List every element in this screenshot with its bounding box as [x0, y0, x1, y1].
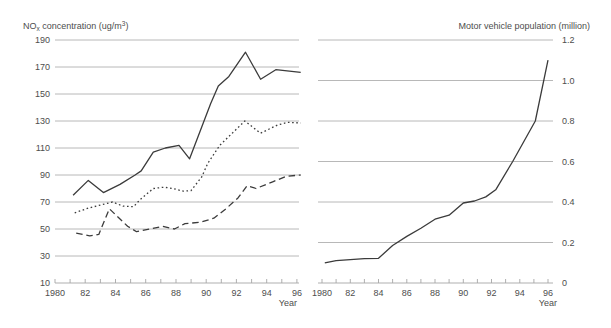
y-tick-label: 130 [35, 116, 50, 126]
y-tick-label: 0.4 [562, 197, 575, 207]
y-tick-label: 50 [40, 224, 50, 234]
x-axis-title: Year [279, 298, 297, 308]
x-tick-label: 86 [141, 288, 151, 298]
y-tick-label: 70 [40, 197, 50, 207]
y-tick-label: 0.2 [562, 238, 575, 248]
y-tick-label: 30 [40, 251, 50, 261]
y-tick-label: 150 [35, 89, 50, 99]
x-tick-label: 1980 [45, 288, 65, 298]
y-tick-label: 1.2 [562, 35, 575, 45]
y-tick-label: 10 [40, 278, 50, 288]
x-tick-label: 86 [402, 288, 412, 298]
x-tick-label: 92 [231, 288, 241, 298]
x-tick-label: 88 [430, 288, 440, 298]
y-tick-label: 170 [35, 62, 50, 72]
x-tick-label: 82 [80, 288, 90, 298]
x-tick-label: 90 [458, 288, 468, 298]
x-axis-title: Year [539, 298, 557, 308]
x-tick-label: 92 [486, 288, 496, 298]
y-tick-label: 0.6 [562, 157, 575, 167]
y-tick-label: 0 [562, 278, 567, 288]
dual-line-chart-figure: 1030507090110130150170190198082848688909… [0, 0, 611, 328]
x-tick-label: 94 [262, 288, 272, 298]
y-tick-label: 110 [36, 143, 50, 153]
y-tick-label: 190 [35, 35, 50, 45]
x-tick-label: 94 [515, 288, 525, 298]
x-tick-label: 96 [543, 288, 553, 298]
x-tick-label: 1980 [312, 288, 332, 298]
chart-title: Motor vehicle population (million) [458, 21, 590, 31]
x-tick-label: 84 [110, 288, 120, 298]
y-tick-label: 90 [40, 170, 50, 180]
x-tick-label: 82 [345, 288, 355, 298]
series-summer-fall [76, 175, 301, 236]
chart-title: NOx concentration (ug/m3) [23, 20, 128, 32]
y-tick-label: 1.0 [562, 76, 575, 86]
series-winter-spring [73, 52, 301, 195]
x-tick-label: 88 [171, 288, 181, 298]
x-tick-label: 90 [201, 288, 211, 298]
chart-motor-vehicle-population: 00.20.40.60.81.01.219808284868890929496Y… [312, 21, 590, 308]
y-tick-label: 0.8 [562, 116, 575, 126]
series-annual-average [75, 121, 301, 213]
x-tick-label: 96 [292, 288, 302, 298]
chart-nox-concentration: 1030507090110130150170190198082848688909… [0, 20, 302, 308]
figure-svg: 1030507090110130150170190198082848688909… [0, 0, 611, 328]
x-tick-label: 84 [373, 288, 383, 298]
